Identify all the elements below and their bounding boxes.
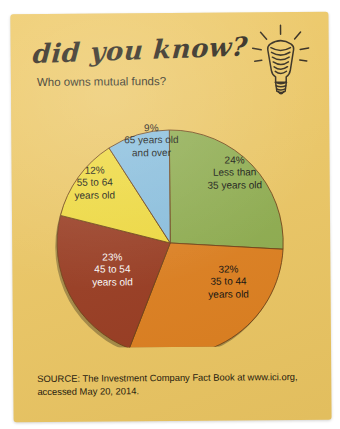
pie-slice-less-than-35	[169, 129, 283, 250]
pie-slices	[56, 129, 284, 348]
source-note: SOURCE: The Investment Company Fact Book…	[37, 370, 313, 398]
did-you-know-card: did you know? Who owns mutual funds?	[10, 12, 331, 422]
page-title: did you know?	[32, 31, 249, 69]
pie-chart: 24% Less than 35 years old 32% 35 to 44 …	[11, 84, 331, 348]
